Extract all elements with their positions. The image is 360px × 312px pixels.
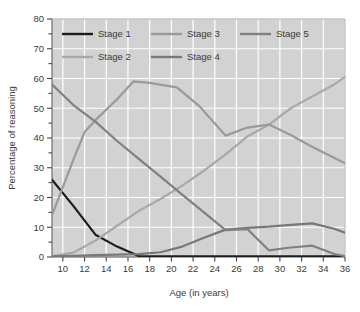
y-tick-label: 30: [33, 162, 44, 173]
x-tick-label: 20: [166, 263, 177, 274]
chart-figure: 1012141618202224262830323436 01020304050…: [0, 0, 360, 312]
y-tick-label: 60: [33, 73, 44, 84]
x-axis-title: Age (in years): [169, 287, 228, 298]
x-tick-label: 32: [296, 263, 307, 274]
x-tick-label: 24: [209, 263, 220, 274]
x-tick-label: 34: [318, 263, 329, 274]
y-tick-label: 10: [33, 222, 44, 233]
y-tick-label: 40: [33, 132, 44, 143]
x-tick-label: 28: [253, 263, 264, 274]
legend-label-stage-5: Stage 5: [276, 28, 309, 39]
legend-label-stage-1: Stage 1: [98, 28, 131, 39]
x-tick-label: 16: [123, 263, 134, 274]
x-tick-label: 10: [58, 263, 69, 274]
y-tick-label: 80: [33, 13, 44, 24]
legend-label-stage-4: Stage 4: [187, 51, 220, 62]
x-tick-label: 36: [340, 263, 351, 274]
x-tick-label: 14: [101, 263, 112, 274]
x-tick-label: 30: [275, 263, 286, 274]
y-tick-label: 0: [39, 251, 44, 262]
x-tick-label: 12: [79, 263, 90, 274]
y-tick-label: 70: [33, 43, 44, 54]
legend-label-stage-3: Stage 3: [187, 28, 220, 39]
y-tick-label: 50: [33, 103, 44, 114]
line-chart: 1012141618202224262830323436 01020304050…: [0, 0, 360, 312]
x-tick-label: 18: [144, 263, 155, 274]
y-axis-title: Percentage of reasoning: [6, 86, 17, 190]
legend-label-stage-2: Stage 2: [98, 51, 131, 62]
x-tick-label: 26: [231, 263, 242, 274]
y-tick-label: 20: [33, 192, 44, 203]
x-tick-label: 22: [188, 263, 199, 274]
y-tick-labels: 01020304050607080: [33, 13, 44, 262]
